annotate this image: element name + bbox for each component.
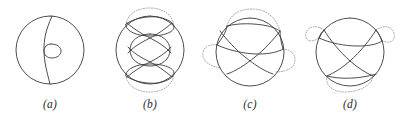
figure-a-solid-paths [16, 16, 84, 84]
figure-d-arc-left-diagonal [324, 30, 373, 76]
figure-a-meridian-curve [44, 16, 52, 84]
figure-a-label: (a) [43, 99, 57, 111]
figure-c: (c) [200, 0, 300, 122]
figure-b-solid-paths [116, 16, 184, 84]
figure-c-dotted-cap-right [275, 49, 295, 72]
figure-b: (b) [100, 0, 200, 122]
figure-c-chord-horizontal [217, 45, 283, 54]
figure-b-cross-arc-upper-right [128, 23, 172, 53]
figure-d-arc-right-diagonal [327, 30, 376, 76]
figure-d-chord-horizontal [319, 38, 382, 46]
figure-d-outer-circle [316, 18, 384, 86]
figure-d-connector-right [376, 30, 382, 41]
figure-c-canvas [200, 0, 300, 98]
figure-b-lens-bottom [126, 64, 174, 83]
figure-d-canvas [300, 0, 400, 98]
figure-a-outer-circle [16, 16, 84, 84]
figure-row: (a) (b) [0, 0, 400, 122]
figure-b-cross-arc-lower-right [128, 47, 172, 77]
figure-c-chord-top [227, 24, 280, 31]
figure-b-lens-top [126, 17, 174, 36]
figure-a: (a) [0, 0, 100, 122]
figure-b-center-oval [130, 34, 170, 66]
figure-a-center-loop [44, 44, 61, 58]
figure-c-dotted-cap-top [227, 9, 280, 31]
figure-c-label: (c) [243, 99, 256, 111]
figure-b-canvas [100, 0, 200, 98]
figure-d-label: (d) [343, 99, 357, 111]
figure-a-canvas [0, 0, 100, 98]
figure-d-dotted-paths [306, 27, 395, 92]
figure-d-solid-paths [316, 18, 384, 86]
figure-b-label: (b) [143, 99, 157, 111]
figure-d-chord-bottom [327, 74, 376, 78]
figure-c-solid-paths [216, 18, 284, 86]
figure-c-arc-left-diagonal [220, 31, 273, 74]
figure-d: (d) [300, 0, 400, 122]
